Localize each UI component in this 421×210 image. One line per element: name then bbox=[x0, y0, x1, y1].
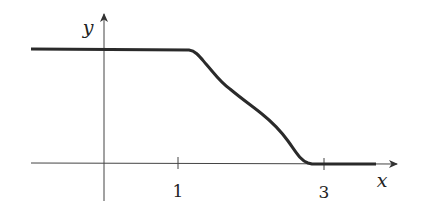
data-curve bbox=[31, 49, 376, 164]
y-axis-label: y bbox=[82, 16, 94, 38]
x-tick-label-3: 3 bbox=[319, 182, 330, 202]
x-tick-label-1: 1 bbox=[173, 181, 184, 201]
x-axis-label: x bbox=[377, 169, 388, 191]
chart-figure: 1 3 y x bbox=[0, 0, 421, 210]
